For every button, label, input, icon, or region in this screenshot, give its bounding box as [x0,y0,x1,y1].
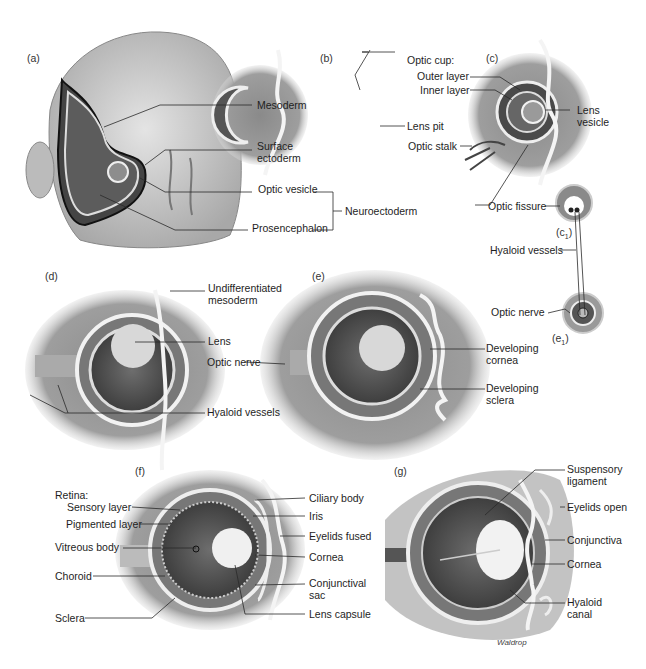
panel-e-art [260,270,490,460]
panel-tag-d: (d) [45,270,58,282]
label-optic-fissure: Optic fissure [488,200,546,212]
panel-g-art [385,470,574,640]
label-hyaloid-vessels-d: Hyaloid vessels [207,406,280,418]
panel-tag-e1: (e1) [552,332,569,346]
panel-a-art [26,32,241,248]
label-optic-cup: Optic cup: [407,54,454,66]
label-lens-capsule: Lens capsule [309,608,371,620]
label-undifferentiated-mesoderm-2: mesoderm [208,294,258,306]
label-conjunctival-sac-2: sac [309,589,325,601]
label-hyaloid-vessels-shared: Hyaloid vessels [490,244,563,256]
label-ciliary-body: Ciliary body [309,492,364,504]
panel-d-art [25,290,225,470]
label-lens: Lens [208,335,231,347]
label-eyelids-open: Eyelids open [567,501,627,513]
label-cornea-f: Cornea [309,551,343,563]
label-outer-layer: Outer layer [417,70,469,82]
panel-c1-art [556,185,592,221]
label-iris: Iris [309,510,323,522]
label-optic-nerve-e1: Optic nerve [491,306,545,318]
label-conjunctival-sac-1: Conjunctival [309,577,366,589]
label-choroid: Choroid [55,570,92,582]
label-hyaloid-canal-1: Hyaloid [567,596,602,608]
panel-tag-c: (c) [486,52,498,64]
panel-tag-a: (a) [27,52,40,64]
label-developing-sclera-1: Developing [486,382,539,394]
label-cornea-g: Cornea [567,558,601,570]
label-eyelids-fused: Eyelids fused [309,530,371,542]
artist-credit: Waldrop [497,638,527,647]
label-surface-ectoderm-1: Surface [257,140,293,152]
panel-tag-f: (f) [135,465,145,477]
panel-f-art [115,470,305,630]
label-undifferentiated-mesoderm-1: Undifferentiated [208,282,282,294]
label-developing-cornea-1: Developing [486,342,539,354]
label-lens-pit: Lens pit [407,120,444,132]
label-pigmented-layer: Pigmented layer [66,518,142,530]
label-vitreous-body: Vitreous body [55,541,119,553]
label-inner-layer: Inner layer [420,84,470,96]
label-optic-vesicle: Optic vesicle [258,183,318,195]
label-developing-sclera-2: sclera [486,394,514,406]
panel-tag-c1: (c1) [556,226,572,240]
label-conjunctiva: Conjunctiva [567,534,622,546]
label-hyaloid-canal-2: canal [567,608,592,620]
panel-tag-b: (b) [320,52,333,64]
label-developing-cornea-2: cornea [486,354,518,366]
label-optic-nerve-d: Optic nerve [207,356,261,368]
eye-development-illustration [0,0,646,669]
label-surface-ectoderm-2: ectoderm [257,152,301,164]
label-suspensory-ligament-2: ligament [567,475,607,487]
label-sensory-layer: Sensory layer [67,501,131,513]
panel-tag-g: (g) [394,465,407,477]
label-optic-stalk: Optic stalk [408,140,457,152]
label-suspensory-ligament-1: Suspensory [567,463,622,475]
label-lens-vesicle-1: Lens [577,104,600,116]
label-mesoderm: Mesoderm [257,99,307,111]
label-neuroectoderm: Neuroectoderm [345,205,417,217]
label-prosencephalon: Prosencephalon [252,222,328,234]
panel-c-art [465,40,592,185]
panel-tag-e: (e) [312,270,325,282]
label-retina: Retina: [55,489,88,501]
panel-e1-art [563,293,603,333]
label-lens-vesicle-2: vesicle [577,116,609,128]
label-sclera: Sclera [55,612,85,624]
